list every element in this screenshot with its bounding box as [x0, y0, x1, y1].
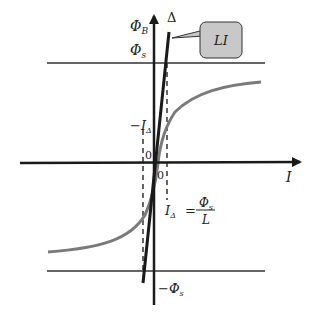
svg-text:IΔ: IΔ	[164, 203, 176, 220]
svg-text:=: =	[185, 203, 196, 218]
phi-s-label: Φs	[130, 42, 146, 60]
i-delta-formula: IΔ = Φs L	[164, 196, 215, 227]
svg-text:L: L	[201, 213, 210, 227]
neg-i-delta-label: −IΔ	[130, 118, 152, 135]
flux-current-diagram: LI ΦB Δ Φs −IΔ 0 0 I IΔ = Φs L −Φs	[0, 0, 313, 318]
x-axis	[20, 162, 300, 163]
callout-pointer	[172, 30, 204, 38]
delta-label: Δ	[167, 10, 176, 25]
origin-upper-label: 0	[145, 149, 152, 162]
x-axis-label: I	[285, 169, 292, 185]
origin-lower-label: 0	[157, 169, 164, 182]
y-axis-label: ΦB	[130, 18, 148, 36]
neg-phi-s-label: −Φs	[158, 281, 184, 298]
callout-label: LI	[213, 33, 229, 48]
